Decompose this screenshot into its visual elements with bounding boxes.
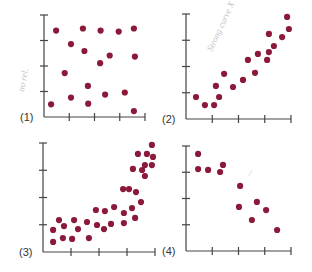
data-point (142, 173, 148, 179)
data-point (120, 186, 126, 192)
scatter-panel-4: (4) (162, 146, 291, 257)
data-point (149, 162, 155, 168)
data-point (85, 101, 91, 107)
data-point (211, 102, 217, 108)
data-point (255, 51, 261, 57)
data-point (142, 162, 148, 168)
data-point (111, 204, 117, 210)
scatter-panel-2: (2) (162, 14, 292, 125)
data-point (108, 221, 114, 227)
data-point (131, 25, 137, 31)
data-point (107, 52, 113, 58)
data-point (195, 166, 201, 172)
scatterplot-figure: (1)(2)(3)(4) no rel. Strong curve X / (0, 0, 312, 272)
annotation-panel-4: / (248, 168, 253, 178)
data-point (266, 31, 272, 37)
data-point (245, 57, 251, 63)
data-point (86, 235, 92, 241)
data-point (97, 60, 103, 66)
data-point (53, 28, 59, 34)
annotation-panel-2: Strong curve X (205, 0, 237, 53)
data-point (149, 142, 155, 148)
data-point (130, 166, 136, 172)
data-point (284, 14, 290, 20)
data-point (94, 222, 100, 228)
panel-label: (2) (162, 113, 175, 125)
data-point (93, 207, 99, 213)
data-point (116, 29, 122, 35)
data-point (263, 207, 269, 213)
data-point (230, 84, 236, 90)
data-point (286, 26, 292, 32)
data-point (132, 215, 138, 221)
data-point (121, 210, 127, 216)
data-point (264, 57, 270, 63)
data-point (271, 43, 277, 49)
data-point (102, 92, 108, 98)
data-point (144, 151, 150, 157)
data-point (240, 77, 246, 83)
data-point (254, 199, 260, 205)
data-point (84, 219, 90, 225)
data-point (68, 41, 74, 47)
data-point (220, 162, 226, 168)
data-point (236, 204, 242, 210)
data-point (221, 71, 227, 77)
panel-label: (4) (162, 245, 175, 257)
data-point (61, 223, 67, 229)
data-point (193, 94, 199, 100)
annotation-panel-1: no rel. (16, 68, 30, 93)
data-point (85, 83, 91, 89)
data-point (252, 70, 258, 76)
data-point (50, 227, 56, 233)
data-point (266, 49, 272, 55)
scatter-panel-1: (1) (20, 15, 145, 123)
data-point (102, 208, 108, 214)
data-point (213, 83, 219, 89)
data-point (48, 101, 54, 107)
panel-label: (3) (19, 246, 32, 258)
data-point (129, 205, 135, 211)
data-point (216, 94, 222, 100)
data-point (205, 167, 211, 173)
data-point (138, 199, 144, 205)
data-point (150, 154, 156, 160)
data-point (126, 186, 132, 192)
data-point (62, 70, 68, 76)
data-point (132, 54, 138, 60)
data-point (135, 151, 141, 157)
data-point (60, 235, 66, 241)
data-point (217, 169, 223, 175)
data-point (122, 89, 128, 95)
data-point (279, 34, 285, 40)
data-point (249, 217, 255, 223)
data-point (81, 48, 87, 54)
data-point (121, 220, 127, 226)
data-point (80, 25, 86, 31)
data-point (195, 151, 201, 157)
data-point (69, 236, 75, 242)
scatter-panel-3: (3) (19, 142, 156, 258)
data-point (98, 28, 104, 34)
panel-label: (1) (20, 111, 33, 123)
data-point (274, 227, 280, 233)
data-point (131, 108, 137, 114)
data-point (202, 102, 208, 108)
data-point (133, 189, 139, 195)
data-point (71, 217, 77, 223)
data-point (75, 226, 81, 232)
data-point (101, 226, 107, 232)
data-point (50, 239, 56, 245)
data-point (237, 183, 243, 189)
data-point (68, 95, 74, 101)
data-point (56, 217, 62, 223)
